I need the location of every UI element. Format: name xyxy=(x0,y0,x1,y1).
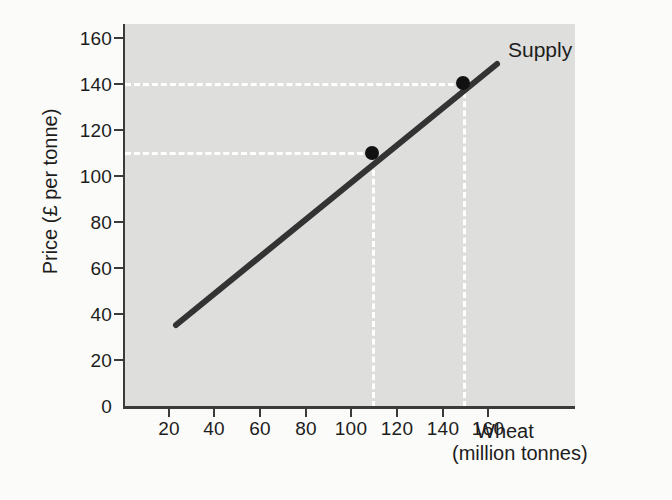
y-tick-label-160: 160 xyxy=(42,28,112,50)
y-tick-40 xyxy=(114,313,123,315)
y-tick-label-20: 20 xyxy=(42,350,112,372)
supply-curve-line xyxy=(125,24,575,407)
x-tick-140 xyxy=(442,407,444,417)
x-tick-160 xyxy=(487,407,489,417)
x-tick-20 xyxy=(168,407,170,417)
y-tick-label-80: 80 xyxy=(42,212,112,234)
y-tick-label-100: 100 xyxy=(42,166,112,188)
y-tick-label-40: 40 xyxy=(42,304,112,326)
x-axis-title: Wheat (million tonnes) xyxy=(452,420,588,465)
x-tick-60 xyxy=(259,407,261,417)
y-tick-label-0: 0 xyxy=(42,396,112,418)
y-tick-60 xyxy=(114,267,123,269)
series-label-supply: Supply xyxy=(508,38,572,62)
y-tick-100 xyxy=(114,175,123,177)
x-axis-line xyxy=(123,406,575,409)
x-tick-100 xyxy=(350,407,352,417)
y-tick-label-140: 140 xyxy=(42,74,112,96)
plot-area: Supply xyxy=(125,24,575,407)
y-tick-20 xyxy=(114,359,123,361)
x-tick-40 xyxy=(213,407,215,417)
y-tick-120 xyxy=(114,129,123,131)
x-tick-80 xyxy=(305,407,307,417)
y-tick-label-120: 120 xyxy=(42,120,112,142)
data-point-110-110 xyxy=(365,146,379,160)
x-axis-title-line2: (million tonnes) xyxy=(452,442,588,464)
x-tick-120 xyxy=(396,407,398,417)
supply-curve-chart: Price (£ per tonne) 160 140 120 100 80 6… xyxy=(0,0,672,500)
y-tick-160 xyxy=(114,37,123,39)
y-tick-label-60: 60 xyxy=(42,258,112,280)
y-tick-80 xyxy=(114,221,123,223)
x-axis-title-line1: Wheat xyxy=(452,420,588,442)
y-tick-140 xyxy=(114,83,123,85)
data-point-150-140 xyxy=(456,76,470,90)
